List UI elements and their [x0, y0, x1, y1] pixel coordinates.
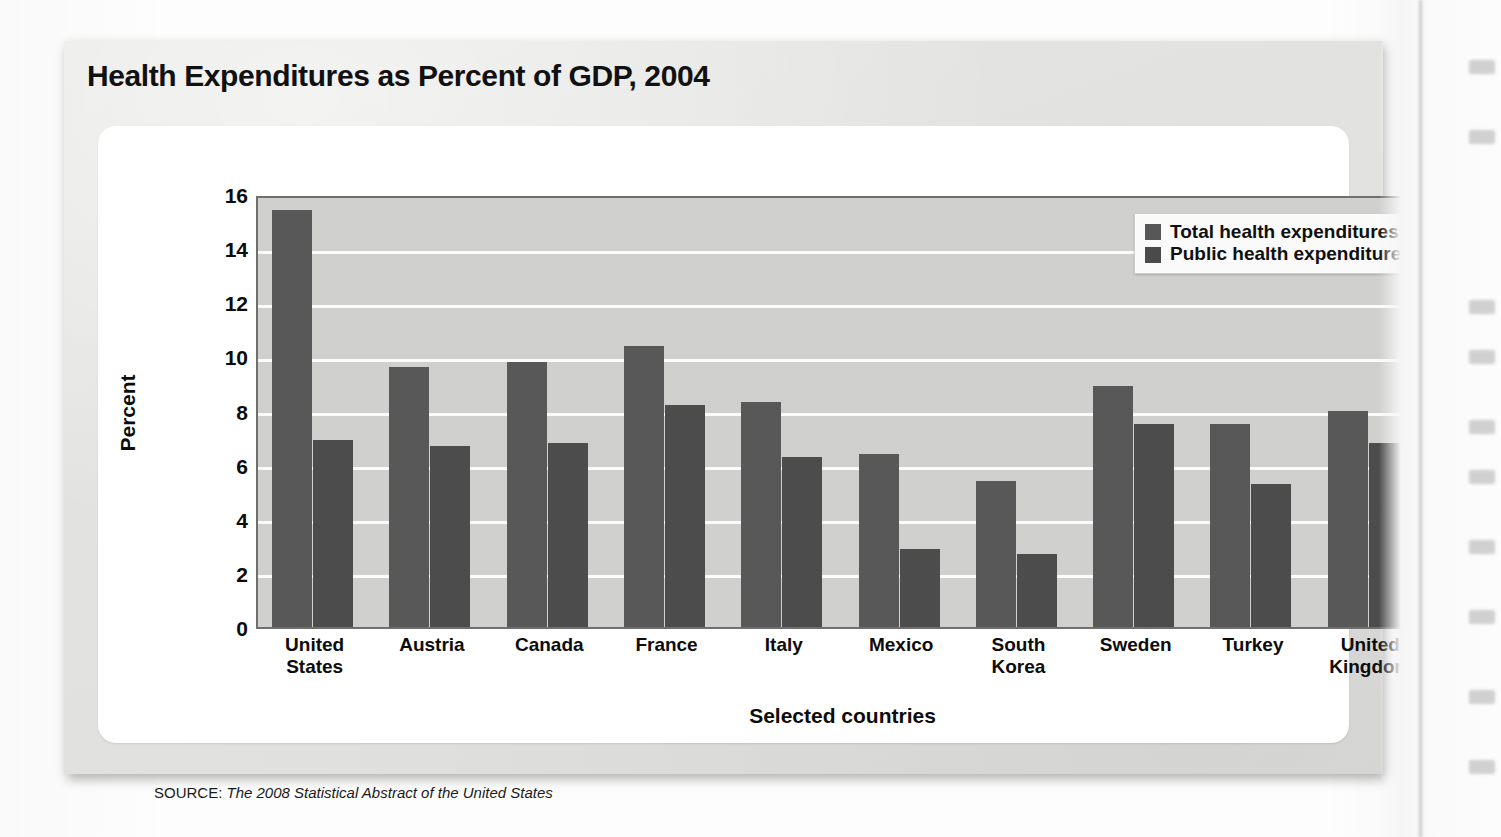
scanned-page: Health Expenditures as Percent of GDP, 2…	[0, 0, 1501, 837]
page-gutter-shadow	[1418, 0, 1423, 837]
bar-grain	[507, 362, 547, 627]
bar-group	[493, 198, 610, 627]
source-label: SOURCE:	[154, 784, 222, 801]
legend-item: Public health expenditures	[1145, 243, 1412, 265]
bar-grain	[1134, 424, 1174, 627]
x-axis-label-line: Italy	[725, 634, 842, 656]
x-axis-label-line: Turkey	[1194, 634, 1311, 656]
x-axis-label-line: United	[256, 634, 373, 656]
bar-grain	[665, 405, 705, 627]
source-note: SOURCE: The 2008 Statistical Abstract of…	[154, 784, 553, 801]
y-axis-tick-label: 6	[188, 455, 248, 479]
bar-grain	[900, 549, 940, 627]
figure-card: Health Expenditures as Percent of GDP, 2…	[64, 41, 1383, 774]
bar-grain	[430, 446, 470, 627]
bar-public	[900, 549, 940, 627]
bar-public	[548, 443, 588, 627]
x-axis-title: Selected countries	[256, 704, 1429, 728]
x-axis-label-line: Austria	[373, 634, 490, 656]
bar-total	[624, 346, 664, 627]
legend-label: Public health expenditures	[1170, 243, 1412, 265]
x-axis-label: Mexico	[843, 634, 960, 656]
bar-grain	[1017, 554, 1057, 627]
bar-grain	[1251, 484, 1291, 627]
bar-total	[389, 367, 429, 627]
y-axis-tick-label: 0	[188, 617, 248, 641]
x-axis-label: Sweden	[1077, 634, 1194, 656]
bar-group	[258, 198, 375, 627]
y-axis-title: Percent	[111, 196, 145, 629]
bar-grain	[859, 454, 899, 627]
y-axis-tick-label: 4	[188, 509, 248, 533]
bar-public	[1134, 424, 1174, 627]
x-axis-label: Turkey	[1194, 634, 1311, 656]
x-axis-label-line: South	[960, 634, 1077, 656]
bar-grain	[389, 367, 429, 627]
bar-public	[313, 440, 353, 627]
x-axis-label: France	[608, 634, 725, 656]
x-axis-label-line: Korea	[960, 656, 1077, 678]
bar-grain	[1328, 411, 1368, 628]
y-axis-tick-label: 10	[188, 346, 248, 370]
bar-total	[272, 210, 312, 627]
y-axis-title-text: Percent	[116, 374, 140, 451]
bar-public	[1251, 484, 1291, 627]
bar-grain	[741, 402, 781, 627]
y-axis-tick-label: 2	[188, 563, 248, 587]
bar-total	[507, 362, 547, 627]
bar-grain	[313, 440, 353, 627]
x-axis-labels: UnitedStatesAustriaCanadaFranceItalyMexi…	[256, 634, 1429, 698]
bar-public	[782, 457, 822, 627]
bar-total	[1093, 386, 1133, 627]
bar-public	[665, 405, 705, 627]
legend-swatch-icon	[1145, 224, 1161, 240]
bar-public	[1017, 554, 1057, 627]
x-axis-label: Austria	[373, 634, 490, 656]
x-axis-label-line: Canada	[491, 634, 608, 656]
x-axis-label: SouthKorea	[960, 634, 1077, 679]
y-axis-ticks: 0246810121416	[184, 196, 248, 629]
y-axis-tick-label: 12	[188, 292, 248, 316]
bar-grain	[272, 210, 312, 627]
plot-wrapper: Percent 0246810121416 Total health expen…	[98, 126, 1349, 743]
bar-total	[976, 481, 1016, 627]
x-axis-label: UnitedStates	[256, 634, 373, 679]
bar-total	[1210, 424, 1250, 627]
bar-grain	[548, 443, 588, 627]
bar-grain	[1093, 386, 1133, 627]
x-axis-label-line: Sweden	[1077, 634, 1194, 656]
bar-group	[727, 198, 844, 627]
x-axis-label: Italy	[725, 634, 842, 656]
bar-group	[375, 198, 492, 627]
legend-item: Total health expenditures	[1145, 221, 1412, 243]
bar-total	[859, 454, 899, 627]
bar-grain	[976, 481, 1016, 627]
bar-grain	[1210, 424, 1250, 627]
bar-total	[741, 402, 781, 627]
bar-group	[610, 198, 727, 627]
x-axis-label-line: Mexico	[843, 634, 960, 656]
bar-grain	[782, 457, 822, 627]
y-axis-tick-label: 14	[188, 238, 248, 262]
source-text: The 2008 Statistical Abstract of the Uni…	[227, 784, 553, 801]
x-axis-label-line: States	[256, 656, 373, 678]
x-axis-label-line: France	[608, 634, 725, 656]
bar-public	[430, 446, 470, 627]
bar-grain	[624, 346, 664, 627]
bar-group	[845, 198, 962, 627]
chart-title: Health Expenditures as Percent of GDP, 2…	[87, 59, 710, 93]
chart-panel: Percent 0246810121416 Total health expen…	[98, 126, 1349, 743]
legend-label: Total health expenditures	[1170, 221, 1399, 243]
page-edge-marks	[1461, 0, 1501, 837]
x-axis-label: Canada	[491, 634, 608, 656]
y-axis-tick-label: 8	[188, 401, 248, 425]
bar-group	[962, 198, 1079, 627]
legend-swatch-icon	[1145, 247, 1161, 263]
bar-total	[1328, 411, 1368, 628]
y-axis-tick-label: 16	[188, 184, 248, 208]
